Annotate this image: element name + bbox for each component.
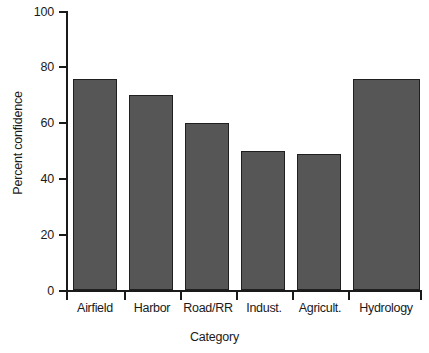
x-axis-label-harbor: Harbor [124,301,180,315]
bar-road-rr [185,123,229,290]
bar-airfield [73,79,117,290]
x-axis-tick-2 [180,291,182,300]
bar-hydrology [353,79,420,290]
x-axis-label-road-rr: Road/RR [178,301,238,315]
x-axis-tick-5 [348,291,350,300]
y-axis-tick-label-80: 80 [0,61,58,73]
x-axis-label-airfield: Airfield [66,301,124,315]
x-axis-line [66,290,422,292]
bar-agricult [297,154,341,290]
bar-chart-figure: 100 80 60 40 20 0 Airfield Harbor Road/R… [0,0,429,353]
y-axis-tick-label-20: 20 [0,229,58,241]
y-axis-tick-label-100: 100 [0,6,58,18]
x-axis-label-agricult: Agricult. [290,301,350,315]
x-axis-label-hydrology: Hydrology [350,301,422,315]
x-axis-tick-start [66,291,68,300]
x-axis-tick-end [420,291,422,300]
x-axis-title: Category [0,330,429,344]
plot-area [66,12,422,290]
bar-indust [241,151,285,290]
x-axis-tick-1 [124,291,126,300]
x-axis-tick-3 [236,291,238,300]
y-axis-title: Percent confidence [11,63,25,223]
y-axis-tick-label-40: 40 [0,173,58,185]
x-axis-label-indust: Indust. [236,301,292,315]
y-axis-tick-label-0: 0 [0,285,58,297]
bar-harbor [129,95,173,290]
x-axis-tick-4 [292,291,294,300]
y-axis-tick-label-60: 60 [0,117,58,129]
